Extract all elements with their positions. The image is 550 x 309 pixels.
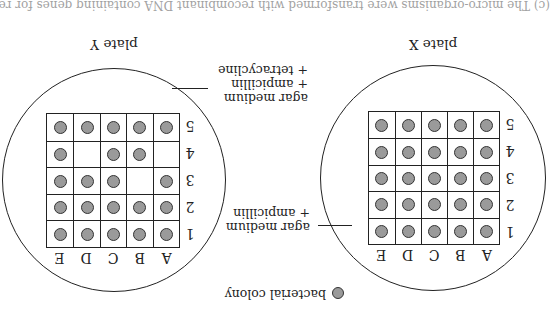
grid-cell bbox=[421, 165, 447, 191]
bacterial-colony-icon bbox=[81, 201, 94, 214]
bacterial-colony-icon bbox=[454, 119, 467, 132]
plate-y-medium: agar medium + ampicillin + tetracycline bbox=[218, 63, 308, 105]
plate-y-medium-line: + tetracycline bbox=[218, 63, 308, 77]
bacterial-colony-icon bbox=[428, 225, 441, 238]
grid-cell bbox=[153, 194, 179, 221]
grid-cell bbox=[447, 218, 473, 244]
row-label: 4 bbox=[504, 144, 516, 158]
plate-x-label: plate X bbox=[383, 37, 483, 53]
grid-cell bbox=[421, 138, 447, 164]
column-label: C bbox=[100, 251, 127, 265]
column-label: D bbox=[394, 248, 420, 262]
bacterial-colony-icon bbox=[133, 121, 146, 134]
row-label: 5 bbox=[504, 117, 516, 131]
grid-cell bbox=[100, 194, 126, 221]
row-label: 5 bbox=[184, 120, 196, 134]
grid-cell bbox=[47, 220, 73, 247]
grid-cell bbox=[395, 218, 421, 244]
grid-cell bbox=[73, 141, 99, 168]
cutoff-caption: (c) The micro-organisms were transformed… bbox=[0, 0, 550, 12]
grid-cell bbox=[473, 165, 499, 191]
grid-cell bbox=[369, 112, 395, 138]
grid-cell bbox=[47, 114, 73, 141]
bacterial-colony-icon bbox=[376, 146, 389, 159]
grid-cell bbox=[126, 141, 152, 168]
grid-cell bbox=[369, 191, 395, 217]
grid-cell bbox=[447, 138, 473, 164]
plate-x-medium-line: + ampicillin bbox=[226, 206, 310, 220]
bacterial-colony-icon bbox=[160, 175, 173, 188]
plate-x-medium: agar medium + ampicillin bbox=[226, 206, 310, 234]
column-label: E bbox=[46, 251, 73, 265]
bacterial-colony-icon bbox=[376, 198, 389, 211]
bacterial-colony-icon bbox=[107, 228, 120, 241]
grid-cell bbox=[126, 114, 152, 141]
grid-cell bbox=[73, 167, 99, 194]
plate-y-grid bbox=[46, 113, 180, 248]
bacterial-colony-icon bbox=[107, 121, 120, 134]
grid-cell bbox=[395, 138, 421, 164]
legend-label: bacterial colony bbox=[225, 287, 326, 302]
bacterial-colony-icon bbox=[480, 198, 493, 211]
bacterial-colony-icon bbox=[133, 228, 146, 241]
figure-canvas: (c) The micro-organisms were transformed… bbox=[0, 0, 550, 309]
grid-cell bbox=[153, 167, 179, 194]
grid-cell bbox=[421, 191, 447, 217]
grid-cell bbox=[100, 220, 126, 247]
grid-cell bbox=[421, 112, 447, 138]
bacterial-colony-icon bbox=[81, 228, 94, 241]
grid-cell bbox=[153, 220, 179, 247]
bacterial-colony-icon bbox=[133, 148, 146, 161]
bacterial-colony-icon bbox=[454, 225, 467, 238]
bacterial-colony-icon bbox=[480, 146, 493, 159]
bacterial-colony-icon bbox=[402, 119, 415, 132]
grid-cell bbox=[447, 191, 473, 217]
grid-cell bbox=[447, 165, 473, 191]
grid-cell bbox=[473, 218, 499, 244]
bacterial-colony-icon bbox=[54, 228, 67, 241]
plate-x-leader-line bbox=[318, 225, 352, 226]
grid-cell bbox=[395, 165, 421, 191]
plate-x-medium-line: agar medium bbox=[226, 220, 310, 234]
grid-cell bbox=[73, 194, 99, 221]
bacterial-colony-icon bbox=[81, 175, 94, 188]
row-label: 1 bbox=[184, 228, 196, 242]
bacterial-colony-icon bbox=[54, 148, 67, 161]
bacterial-colony-icon bbox=[402, 225, 415, 238]
bacterial-colony-icon bbox=[480, 172, 493, 185]
grid-cell bbox=[473, 112, 499, 138]
grid-cell bbox=[126, 167, 152, 194]
bacterial-colony-icon bbox=[454, 146, 467, 159]
column-label: D bbox=[73, 251, 100, 265]
column-label: B bbox=[126, 251, 153, 265]
column-label: A bbox=[153, 251, 180, 265]
grid-cell bbox=[369, 165, 395, 191]
bacterial-colony-icon bbox=[480, 225, 493, 238]
bacterial-colony-icon bbox=[81, 121, 94, 134]
grid-cell bbox=[395, 191, 421, 217]
grid-cell bbox=[100, 114, 126, 141]
grid-cell bbox=[153, 141, 179, 168]
bacterial-colony-icon bbox=[480, 119, 493, 132]
bacterial-colony-icon bbox=[428, 146, 441, 159]
grid-cell bbox=[47, 194, 73, 221]
row-label: 4 bbox=[184, 147, 196, 161]
bacterial-colony-icon bbox=[160, 201, 173, 214]
grid-cell bbox=[447, 112, 473, 138]
grid-cell bbox=[73, 220, 99, 247]
bacterial-colony-icon bbox=[160, 121, 173, 134]
bacterial-colony-icon bbox=[402, 146, 415, 159]
grid-cell bbox=[100, 167, 126, 194]
bacterial-colony-icon bbox=[376, 172, 389, 185]
bacterial-colony-icon bbox=[54, 175, 67, 188]
bacterial-colony-icon bbox=[160, 228, 173, 241]
bacterial-colony-icon bbox=[428, 119, 441, 132]
bacterial-colony-icon bbox=[133, 201, 146, 214]
bacterial-colony-icon bbox=[54, 121, 67, 134]
colony-circle-icon bbox=[332, 287, 344, 299]
bacterial-colony-icon bbox=[54, 201, 67, 214]
grid-cell bbox=[47, 167, 73, 194]
bacterial-colony-icon bbox=[428, 198, 441, 211]
row-label: 2 bbox=[184, 201, 196, 215]
grid-cell bbox=[473, 138, 499, 164]
